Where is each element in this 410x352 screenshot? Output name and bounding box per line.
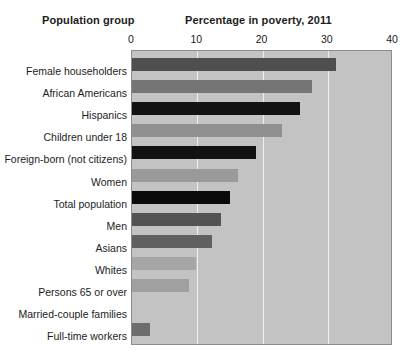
bar [132,323,150,336]
bar [132,191,230,204]
category-label: Men [0,220,127,232]
bar [132,279,189,292]
category-label: Married-couple families [0,308,127,320]
category-column-header: Population group [42,14,135,26]
category-label: Asians [0,242,127,254]
x-tick-label: 10 [190,33,202,45]
category-label: Total population [0,198,127,210]
bar [132,102,300,115]
chart-title: Percentage in poverty, 2011 [185,14,332,26]
poverty-bar-chart: Population group Percentage in poverty, … [0,0,410,352]
category-label: Persons 65 or over [0,286,127,298]
bar [132,257,196,270]
bar [132,146,256,159]
category-axis-labels: Female householdersAfrican AmericansHisp… [0,57,127,345]
category-label: Hispanics [0,109,127,121]
x-tick-label: 40 [386,33,398,45]
plot-area [131,50,392,345]
bar [132,169,238,182]
category-label: Whites [0,264,127,276]
category-label: Foreign-born (not citizens) [0,153,127,165]
bar [132,235,212,248]
gridline [328,51,329,344]
x-tick-label: 0 [128,33,134,45]
x-tick-label: 20 [256,33,268,45]
category-label: African Americans [0,87,127,99]
category-label: Full-time workers [0,330,127,342]
bar [132,80,312,93]
x-tick-label: 30 [321,33,333,45]
category-label: Children under 18 [0,131,127,143]
bar [132,58,336,71]
x-axis-tick-labels: 010203040 [131,33,392,48]
category-label: Women [0,176,127,188]
bar [132,213,221,226]
gridline [263,51,264,344]
bar [132,124,282,137]
category-label: Female householders [0,65,127,77]
